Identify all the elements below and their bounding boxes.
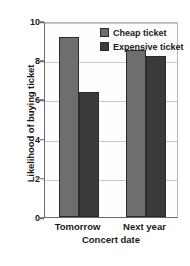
- y-tick-label: 6: [16, 95, 40, 105]
- y-tick-label: 2: [16, 174, 40, 184]
- y-tick-mark: [40, 100, 44, 102]
- x-tick-label: Tomorrow: [43, 221, 113, 232]
- legend-swatch-icon: [100, 42, 109, 51]
- legend-label: Expensive ticket: [113, 42, 184, 52]
- bar: [126, 50, 146, 217]
- x-tick-label: Next year: [110, 221, 180, 232]
- y-tick-label: 0: [16, 213, 40, 223]
- y-tick-label: 4: [16, 135, 40, 145]
- x-axis-title: Concert date: [44, 234, 178, 245]
- y-tick-mark: [40, 21, 44, 23]
- y-tick-mark: [40, 178, 44, 180]
- legend-item: Cheap ticket: [100, 26, 184, 39]
- legend-label: Cheap ticket: [113, 28, 167, 38]
- chart-legend: Cheap ticketExpensive ticket: [100, 26, 184, 54]
- bar: [59, 37, 79, 217]
- bar-chart-figure: Likelihood of buying ticket 0246810 Tomo…: [0, 0, 190, 266]
- y-tick-label: 10: [16, 17, 40, 27]
- y-tick-mark: [40, 139, 44, 141]
- y-tick-mark: [40, 217, 44, 219]
- y-tick-mark: [40, 60, 44, 62]
- legend-swatch-icon: [100, 28, 109, 37]
- legend-item: Expensive ticket: [100, 40, 184, 53]
- bar: [146, 56, 166, 217]
- gridline: [45, 23, 177, 24]
- y-tick-label: 8: [16, 56, 40, 66]
- bar: [79, 92, 99, 217]
- y-axis-title: Likelihood of buying ticket: [25, 24, 36, 224]
